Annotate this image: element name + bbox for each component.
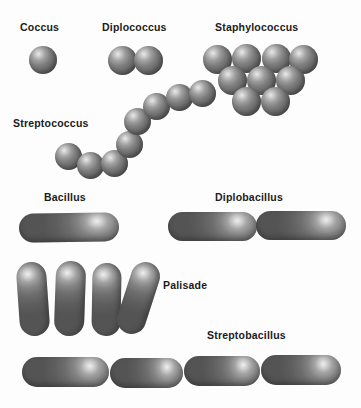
cell-group-streptobacillus [0,0,361,408]
bacillus-cell [184,356,260,386]
bacillus-cell [261,355,341,385]
bacillus-cell [22,357,109,387]
bacillus-cell [110,358,183,388]
bacteria-morphology-figure: Coccus Diplococcus Staphylococcus Strept… [0,0,361,408]
